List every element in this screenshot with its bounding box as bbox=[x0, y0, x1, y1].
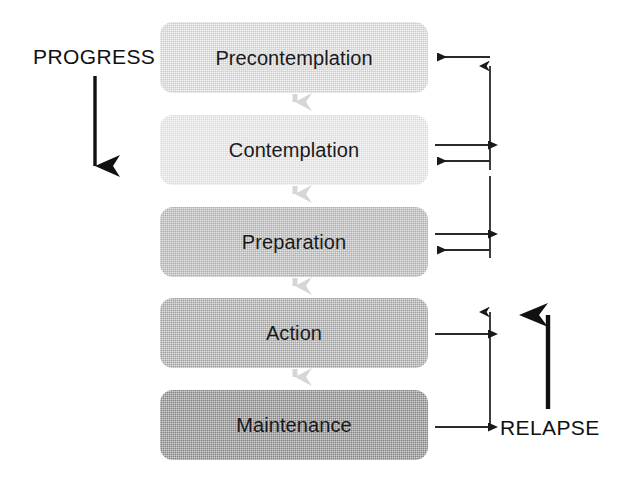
stage-label-action: Action bbox=[266, 323, 322, 343]
stage-label-maintenance: Maintenance bbox=[236, 415, 352, 435]
stage-label-preparation: Preparation bbox=[242, 232, 347, 252]
stage-label-precontemplation: Precontemplation bbox=[215, 48, 372, 68]
stage-box-maintenance[interactable]: Maintenance bbox=[160, 390, 428, 460]
stage-box-contemplation[interactable]: Contemplation bbox=[160, 115, 428, 185]
progress-label: PROGRESS bbox=[33, 46, 155, 67]
relapse-label: RELAPSE bbox=[500, 417, 600, 438]
stage-box-action[interactable]: Action bbox=[160, 298, 428, 368]
stages-of-change-diagram: Precontemplation Contemplation Preparati… bbox=[0, 0, 628, 481]
stage-box-precontemplation[interactable]: Precontemplation bbox=[160, 22, 428, 93]
stage-label-contemplation: Contemplation bbox=[229, 140, 359, 160]
stage-box-preparation[interactable]: Preparation bbox=[160, 207, 428, 277]
